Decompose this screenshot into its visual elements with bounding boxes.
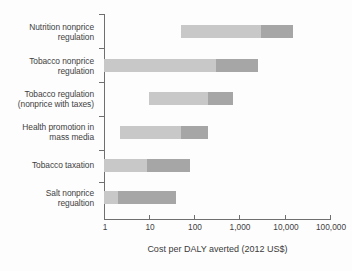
bar-segment-tobacco-regulation-with-taxes-upper (208, 92, 233, 105)
bar-segment-tobacco-taxation-upper (147, 159, 190, 172)
x-axis-tick (104, 215, 105, 220)
x-axis-tick-label: 10 (145, 222, 154, 232)
category-label-nutrition-nonprice-regulation: Nutrition nonprice regulation (0, 22, 94, 42)
x-axis-tick-label: 100,000 (316, 222, 346, 232)
y-axis-tick (99, 116, 104, 117)
y-axis-tick (99, 14, 104, 15)
x-axis-tick (239, 215, 240, 220)
x-axis-tick (330, 215, 331, 220)
bar-segment-salt-nonprice-regulation-lower (104, 191, 118, 204)
bar-segment-nutrition-nonprice-regulation-upper (261, 25, 293, 38)
chart-container: Nutrition nonprice regulation Tobacco no… (0, 0, 352, 271)
bar-segment-tobacco-nonprice-regulation-lower (104, 59, 216, 72)
x-axis-tick-label: 1 (103, 222, 108, 232)
x-axis-tick-label: 100 (188, 222, 202, 232)
y-axis-tick (99, 48, 104, 49)
bar-segment-health-promotion-mass-media-upper (181, 126, 208, 139)
y-axis-line (104, 14, 105, 220)
x-axis-tick-label: 1,000 (230, 222, 251, 232)
x-axis-tick (194, 215, 195, 220)
bar-segment-health-promotion-mass-media-lower (120, 126, 180, 139)
y-axis-tick (99, 150, 104, 151)
x-axis-tick (285, 215, 286, 220)
bar-segment-tobacco-nonprice-regulation-upper (216, 59, 258, 72)
bar-segment-nutrition-nonprice-regulation-lower (181, 25, 261, 38)
y-axis-tick (99, 82, 104, 83)
category-label-tobacco-nonprice-regulation: Tobacco nonprice regulation (0, 56, 94, 76)
x-axis-tick-label: 10,000 (273, 222, 298, 232)
category-label-salt-nonprice-regulation: Salt nonprice regualtion (0, 188, 94, 208)
category-label-tobacco-regulation-with-taxes: Tobacco regulation (nonprice with taxes) (0, 89, 94, 109)
bar-segment-salt-nonprice-regulation-upper (118, 191, 177, 204)
category-label-tobacco-taxation: Tobacco taxation (0, 160, 94, 170)
x-axis-line (104, 219, 331, 220)
bar-segment-tobacco-regulation-with-taxes-lower (149, 92, 208, 105)
x-axis-title: Cost per DALY averted (2012 US$) (104, 244, 331, 254)
category-label-health-promotion-mass-media: Health promotion in mass media (0, 122, 94, 142)
x-axis-tick (149, 215, 150, 220)
y-axis-tick (99, 182, 104, 183)
bar-segment-tobacco-taxation-lower (104, 159, 147, 172)
